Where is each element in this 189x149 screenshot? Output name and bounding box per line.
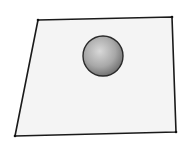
ground-plane: [15, 17, 176, 136]
scene-canvas: [0, 0, 189, 149]
sphere: [83, 36, 123, 76]
